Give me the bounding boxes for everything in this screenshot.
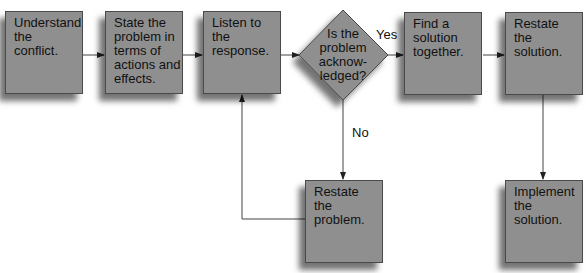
- node-state-problem: State the problem in terms of actions an…: [105, 11, 183, 94]
- node-understand-conflict: Understand the conflict.: [5, 11, 83, 94]
- node-find-solution: Find a solution together.: [404, 12, 482, 95]
- node-implement-solution: Implement the solution.: [505, 180, 583, 263]
- node-label: Implement the solution.: [514, 185, 582, 227]
- node-label: State the problem in terms of actions an…: [114, 16, 182, 86]
- node-listen-response: Listen to the response.: [203, 11, 281, 94]
- edge-label-yes: Yes: [376, 27, 397, 42]
- node-label: Find a solution together.: [413, 17, 481, 59]
- node-restate-solution: Restate the solution.: [505, 12, 583, 95]
- node-label: Restate the problem.: [314, 185, 382, 227]
- flowchart: Understand the conflict. State the probl…: [0, 0, 586, 273]
- edge-label-no: No: [352, 125, 369, 140]
- connectors: [0, 0, 586, 273]
- node-label: Understand the conflict.: [14, 16, 82, 58]
- edge-restate-problem-listen: [242, 95, 305, 219]
- node-label: Listen to the response.: [212, 16, 280, 58]
- decision-label: Is the problem acknow- ledged?: [311, 27, 375, 83]
- node-restate-problem: Restate the problem.: [305, 180, 383, 263]
- node-label: Restate the solution.: [514, 17, 582, 59]
